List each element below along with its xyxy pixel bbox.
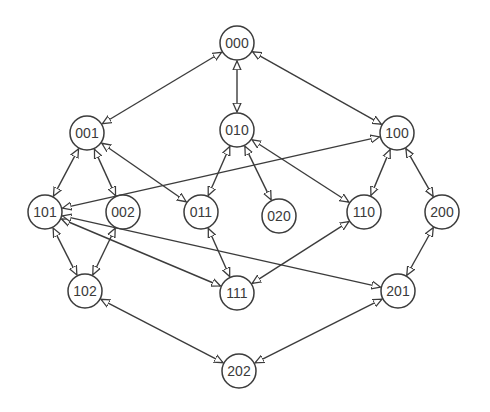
edge-102-202: [101, 299, 223, 362]
node-111: 111: [220, 276, 254, 310]
edge-110-111: [252, 222, 349, 284]
edge-100-110: [371, 150, 390, 196]
node-101: 101: [28, 195, 62, 229]
node-100: 100: [380, 116, 414, 150]
node-label: 011: [190, 204, 213, 220]
node-020: 020: [262, 199, 296, 233]
edge-001-002: [94, 149, 115, 195]
node-label: 000: [225, 35, 249, 51]
edge-101-102: [53, 228, 77, 275]
node-label: 201: [386, 283, 410, 299]
node-202: 202: [222, 354, 256, 388]
node-label: 110: [353, 204, 376, 220]
node-label: 200: [430, 204, 454, 220]
node-label: 002: [111, 204, 135, 220]
lattice-graph: 0000010101001010020110201102001021112012…: [0, 0, 490, 412]
edge-100-101: [63, 137, 380, 208]
edge-010-020: [245, 146, 271, 200]
node-201: 201: [381, 274, 415, 308]
node-label: 102: [73, 283, 97, 299]
node-002: 002: [106, 195, 140, 229]
node-110: 110: [347, 195, 381, 229]
node-label: 020: [267, 208, 291, 224]
edge-101-201: [63, 216, 381, 287]
edge-000-001: [102, 52, 221, 123]
diagram-canvas: 0000010101001010020110201102001021112012…: [0, 0, 490, 412]
edge-000-100: [253, 52, 382, 124]
node-010: 010: [220, 113, 254, 147]
node-label: 001: [75, 125, 99, 141]
node-001: 001: [70, 116, 104, 150]
node-label: 111: [226, 285, 247, 301]
node-200: 200: [425, 195, 459, 229]
edge-201-202: [255, 299, 382, 363]
edge-200-201: [407, 228, 433, 276]
node-label: 101: [33, 204, 57, 220]
node-000: 000: [220, 26, 254, 60]
node-label: 202: [227, 363, 251, 379]
edge-001-101: [53, 149, 78, 196]
node-label: 100: [385, 125, 409, 141]
edge-010-110: [252, 140, 349, 202]
node-011: 011: [184, 195, 218, 229]
edge-100-200: [406, 149, 433, 197]
node-102: 102: [68, 274, 102, 308]
node-layer: 0000010101001010020110201102001021112012…: [28, 26, 459, 388]
node-label: 010: [225, 122, 249, 138]
edge-002-102: [93, 228, 115, 275]
